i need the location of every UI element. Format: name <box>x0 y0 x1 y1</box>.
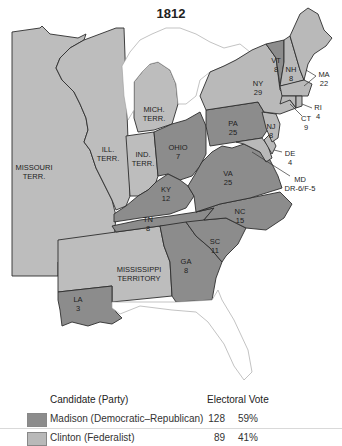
label-pennsylvania: PA <box>228 119 237 128</box>
label-north-carolina: NC <box>235 207 246 216</box>
electoral-map: MISSOURI TERR. ILL. TERR. IND. TERR. MIC… <box>0 0 342 388</box>
label-south-carolina: SC <box>210 237 221 246</box>
legend-header-votes: Electoral Vote <box>207 394 269 405</box>
label-louisiana-votes: 3 <box>76 304 80 313</box>
label-maryland: MD <box>294 175 306 184</box>
label-new-york: NY <box>253 79 263 88</box>
label-tennessee: TN <box>143 215 153 224</box>
label-virginia-votes: 25 <box>224 178 232 187</box>
electoral-votes: 89 <box>205 432 225 443</box>
label-michigan-2: TERR. <box>143 114 166 123</box>
label-pennsylvania-votes: 25 <box>229 128 237 137</box>
label-mississippi-2: TERRITORY <box>117 274 160 283</box>
label-indiana: IND. <box>136 150 151 159</box>
label-louisiana: LA <box>73 295 82 304</box>
label-virginia: VA <box>223 169 232 178</box>
label-kentucky: KY <box>161 185 171 194</box>
vote-percent: 59% <box>238 413 258 424</box>
label-new-hampshire-votes: 8 <box>289 74 293 83</box>
label-new-hampshire: NH <box>286 65 297 74</box>
label-indiana-2: TERR. <box>132 159 155 168</box>
legend: Candidate (Party) Electoral Vote Madison… <box>0 388 342 446</box>
label-vermont-votes: 8 <box>274 65 278 74</box>
label-ohio: OHIO <box>168 143 187 152</box>
label-kentucky-votes: 12 <box>162 194 170 203</box>
region-rhode-island <box>296 96 302 108</box>
label-michigan: MICH. <box>143 105 164 114</box>
legend-row-madison: Madison (Democratic–Republican) 128 59% <box>0 410 342 429</box>
label-illinois: ILL. <box>102 145 115 154</box>
label-connecticut-votes: 9 <box>304 123 308 132</box>
label-rhode-island-votes: 4 <box>316 112 320 121</box>
label-south-carolina-votes: 11 <box>211 246 219 255</box>
swatch-democratic-republican <box>27 413 47 427</box>
electoral-votes: 128 <box>205 413 225 424</box>
label-missouri: MISSOURI <box>15 163 52 172</box>
spanish-florida <box>112 290 252 380</box>
label-georgia-votes: 8 <box>184 266 188 275</box>
label-delaware: DE <box>285 149 295 158</box>
label-tennessee-votes: 8 <box>146 224 150 233</box>
label-maryland-votes: DR-6/F-5 <box>285 184 316 193</box>
label-new-jersey-votes: 8 <box>269 131 273 140</box>
label-ohio-votes: 7 <box>176 152 180 161</box>
label-mississippi: MISSISSIPPI <box>117 265 162 274</box>
label-vermont: VT <box>271 56 281 65</box>
label-connecticut: CT <box>301 114 311 123</box>
leader-delaware <box>274 150 282 152</box>
vote-percent: 41% <box>238 432 258 443</box>
label-rhode-island: RI <box>314 103 322 112</box>
label-north-carolina-votes: 15 <box>236 216 244 225</box>
label-illinois-2: TERR. <box>97 154 120 163</box>
swatch-federalist <box>27 432 47 446</box>
label-georgia: GA <box>181 257 192 266</box>
label-massachusetts-votes: 22 <box>320 79 328 88</box>
label-new-york-votes: 29 <box>254 88 262 97</box>
label-missouri-2: TERR. <box>23 172 46 181</box>
legend-header-candidate: Candidate (Party) <box>50 394 128 405</box>
label-new-jersey: NJ <box>266 122 275 131</box>
candidate-name: Madison (Democratic–Republican) <box>50 413 203 424</box>
leader-rhode-island <box>302 104 312 108</box>
candidate-name: Clinton (Federalist) <box>50 432 134 443</box>
legend-row-clinton: Clinton (Federalist) 89 41% <box>0 429 342 446</box>
label-delaware-votes: 4 <box>288 158 292 167</box>
label-massachusetts: MA <box>318 70 329 79</box>
